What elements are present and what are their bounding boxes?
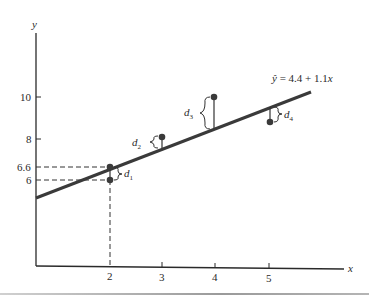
label-d3: d3 <box>184 107 193 123</box>
label-d1: d1 <box>124 168 133 184</box>
x-tick-label-4: 4 <box>212 272 218 283</box>
bottom-divider <box>0 293 369 295</box>
data-point-2 <box>159 134 166 141</box>
equation-x: x <box>328 72 333 84</box>
y-tick-label-6: 6 <box>26 175 32 186</box>
regression-chart <box>0 0 369 298</box>
x-tick-label-5: 5 <box>266 273 272 284</box>
y-tick-label-10: 10 <box>20 92 31 103</box>
y-tick-label-8: 8 <box>26 134 32 145</box>
equation-body: = 4.4 + 1.1 <box>277 72 328 84</box>
x-axis <box>36 266 344 269</box>
data-point-3 <box>211 94 218 101</box>
fitted-point-1 <box>107 164 114 171</box>
data-point-1 <box>107 177 114 184</box>
regression-equation: ŷ = 4.4 + 1.1x <box>272 73 333 84</box>
brace-d2 <box>150 136 158 148</box>
x-axis-label: x <box>348 263 353 274</box>
x-tick-label-2: 2 <box>107 271 113 282</box>
x-tick-label-3: 3 <box>159 272 165 283</box>
label-d4: d4 <box>284 109 293 125</box>
data-point-4 <box>267 119 274 126</box>
brace-d3 <box>200 97 210 129</box>
y-axis-label: y <box>32 19 37 30</box>
brace-d4 <box>274 107 282 122</box>
label-d2: d2 <box>132 137 141 153</box>
y-tick-label-6-6: 6.6 <box>17 162 31 173</box>
